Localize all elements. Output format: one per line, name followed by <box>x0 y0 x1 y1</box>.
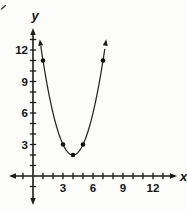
x-tick-label: 6 <box>90 182 96 194</box>
curve-left-arrow <box>37 39 43 46</box>
y-axis-label: y <box>30 8 39 23</box>
data-point <box>71 153 76 158</box>
y-axis-bottom-arrow <box>30 198 35 205</box>
parabola-curve <box>41 46 105 155</box>
y-tick-label: 9 <box>22 76 28 88</box>
data-point <box>41 58 46 63</box>
graph-canvas: 3691236912 y x <box>0 0 187 211</box>
x-axis-left-arrow <box>9 173 16 178</box>
curve-right-arrow <box>103 39 109 46</box>
x-axis-right-arrow <box>170 173 177 178</box>
axes-and-curve-group: 3691236912 <box>9 28 177 205</box>
data-point <box>101 58 106 63</box>
data-point <box>81 142 86 147</box>
parabola-graph-figure: 3691236912 y x <box>0 0 187 211</box>
data-point <box>61 142 66 147</box>
y-axis-top-arrow <box>30 28 35 35</box>
corner-artifact <box>2 6 6 10</box>
x-tick-label: 12 <box>147 182 160 194</box>
x-axis-label: x <box>179 169 187 184</box>
x-tick-label: 9 <box>120 182 126 194</box>
y-tick-label: 12 <box>15 44 28 56</box>
y-tick-label: 6 <box>22 107 28 119</box>
y-tick-label: 3 <box>22 139 28 151</box>
x-tick-label: 3 <box>60 182 66 194</box>
